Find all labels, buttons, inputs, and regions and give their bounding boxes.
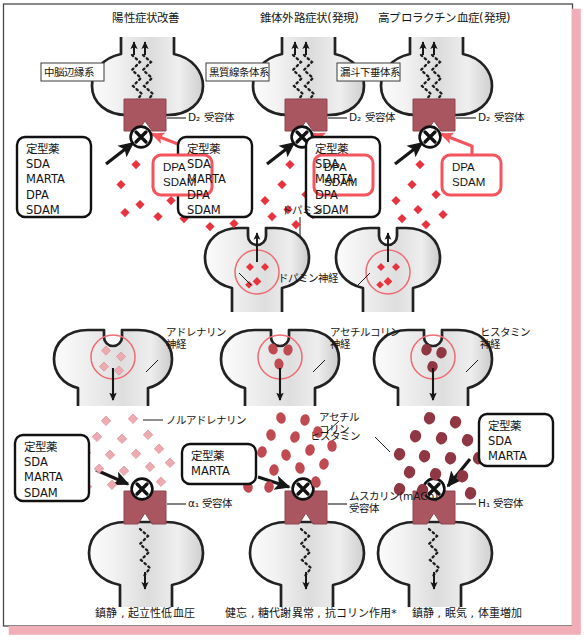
- effect-caption-mach: 健忘 , 糖代謝異常 , 抗コリン作用*: [211, 608, 411, 621]
- diagram-stage: 陽性症状改善 錐体外路症状(発現) 高プロラクチン血症(発現) 中脳辺縁系 黒質…: [0, 0, 584, 643]
- label-histaminergic-neuron: ヒスタミン神経: [480, 326, 530, 351]
- drug-box-h1[interactable]: 定型薬SDAMARTA: [488, 419, 527, 465]
- pathway-label-mesolimbic: 中脳辺縁系: [44, 66, 94, 78]
- label-dopamine: ドパミン: [282, 204, 322, 216]
- effect-caption-alpha1: 鎮静 , 起立性低血圧: [55, 608, 235, 621]
- receptor-label-alpha1: α₁ 受容体: [188, 497, 232, 509]
- label-adrenergic-neuron: アドレナリン神経: [166, 326, 226, 351]
- drug-box-mach[interactable]: 定型薬MARTA: [191, 449, 230, 479]
- bottom-presynaptic-terminals: [54, 330, 492, 406]
- receptor-label-d2-1: D₂ 受容体: [188, 111, 234, 123]
- label-cholinergic-neuron: アセチルコリン神経: [330, 326, 400, 351]
- figure-page: 陽性症状改善 錐体外路症状(発現) 高プロラクチン血症(発現) 中脳辺縁系 黒質…: [0, 0, 584, 643]
- receptor-label-h1: H₁ 受容体: [478, 497, 523, 509]
- agonist-box-2[interactable]: DPASDAM: [324, 160, 357, 190]
- drug-box-mesolimbic-lines: 定型薬SDAMARTADPASDAM: [26, 142, 65, 217]
- drug-box-mach-lines: 定型薬MARTA: [191, 449, 230, 478]
- pathway-label-tuberoinfundibular: 漏斗下垂体系: [340, 66, 400, 78]
- agonist-box-3-lines: DPASDAM: [452, 161, 485, 188]
- agonist-box-1-lines: DPASDAM: [163, 161, 196, 188]
- top-postsynaptic-cells: [92, 37, 492, 131]
- diagram-graphics: [0, 0, 584, 643]
- pathway-label-nigrostriatal: 黒質線条体系: [209, 66, 269, 78]
- agonist-box-1[interactable]: DPASDAM: [163, 160, 196, 190]
- label-noradrenaline: ノルアドレナリン: [166, 414, 246, 426]
- effect-caption-h1: 鎮静 , 眠気 , 体重増加: [382, 608, 552, 621]
- label-histamine: ヒスタミン: [310, 430, 360, 442]
- drug-box-alpha1-lines: 定型薬SDAMARTASDAM: [24, 440, 63, 500]
- drug-box-h1-lines: 定型薬SDAMARTA: [488, 419, 527, 463]
- drug-box-mesolimbic[interactable]: 定型薬SDAMARTADPASDAM: [26, 142, 65, 218]
- label-dopamine-neuron: ドパミン神経: [278, 272, 338, 284]
- heading-tuberoinfundibular: 高プロラクチン血症(発現): [362, 12, 527, 26]
- receptor-label-d2-3: D₂ 受容体: [478, 111, 524, 123]
- receptor-label-mach: ムスカリン(mACh)受容体: [349, 490, 438, 515]
- heading-mesolimbic: 陽性症状改善: [86, 12, 206, 26]
- drug-box-alpha1[interactable]: 定型薬SDAMARTASDAM: [24, 440, 63, 501]
- agonist-box-3[interactable]: DPASDAM: [452, 160, 485, 190]
- receptor-label-d2-2: D₂ 受容体: [349, 111, 395, 123]
- heading-nigrostriatal: 錐体外路症状(発現): [237, 12, 382, 26]
- agonist-box-2-lines: DPASDAM: [324, 161, 357, 188]
